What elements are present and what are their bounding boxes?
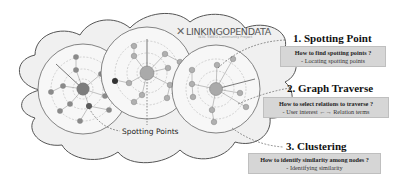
step-2-box: How to select relations to traverse ? - … <box>263 97 389 118</box>
step-2-answer: - User interest ←→ Relation terms <box>264 108 388 116</box>
cluster-circle-3 <box>172 45 260 133</box>
logo-icon: ✕ <box>176 25 185 38</box>
step-1-answer: - Locating spotting points <box>281 57 385 65</box>
step-1-box: How to find spotting points ? - Locating… <box>280 46 386 67</box>
step-2-question: How to select relations to traverse ? <box>264 100 388 108</box>
step-1-question: How to find spotting points ? <box>281 49 385 57</box>
step-2-title: 2. Graph Traverse <box>287 82 373 94</box>
linking-open-data-logo: ✕ LINKINGOPENDATA W3C SWEO Community Pro… <box>176 25 271 38</box>
step-3-box: How to identify similarity among nodes ?… <box>248 153 381 174</box>
spotting-points-label: Spotting Points <box>122 127 179 136</box>
step-3-title: 3. Clustering <box>286 140 347 152</box>
step-3-answer: - Identifying similarity <box>249 164 380 172</box>
step-1-title: 1. Spotting Point <box>293 32 372 44</box>
logo-subtitle: W3C SWEO Community Project <box>198 35 252 39</box>
step-3-question: How to identify similarity among nodes ? <box>249 156 380 164</box>
